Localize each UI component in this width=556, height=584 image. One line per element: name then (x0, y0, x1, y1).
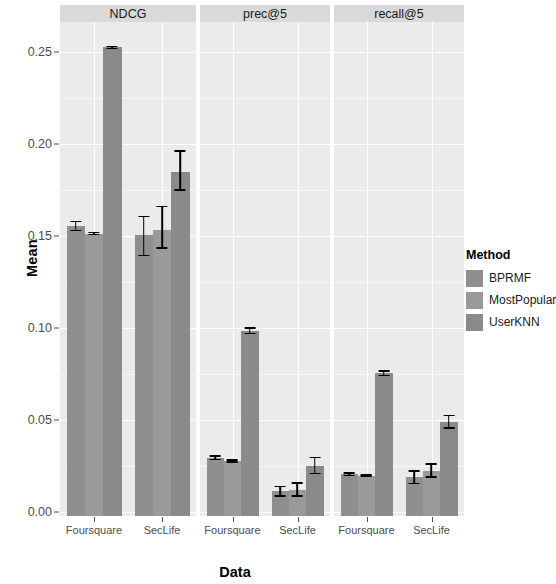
legend-item-BPRMF[interactable]: BPRMF (466, 267, 555, 289)
x-tick-mark (94, 517, 95, 522)
major-gridline (200, 52, 330, 53)
y-tick-mark (54, 420, 59, 421)
facet-strip-label: recall@5 (374, 7, 424, 21)
facet-strip-NDCG: NDCG (60, 5, 196, 22)
error-bar (171, 150, 189, 190)
error-bar (341, 472, 358, 476)
major-gridline (60, 52, 196, 53)
error-bar (153, 206, 171, 249)
major-gridline (200, 236, 330, 237)
minor-gridline (334, 190, 464, 191)
error-bar-stem (179, 150, 181, 190)
legend-items: BPRMFMostPopularUserKNN (466, 267, 555, 333)
minor-gridline (200, 282, 330, 283)
legend-item-label: BPRMF (489, 271, 531, 285)
bar-recall-5-SecLife-UserKNN (440, 422, 458, 516)
bar-NDCG-Foursquare-UserKNN (103, 47, 122, 516)
error-bar-cap-bottom (210, 459, 221, 461)
error-bar-cap-bottom (107, 48, 118, 50)
x-tick-label-Foursquare: Foursquare (66, 524, 122, 536)
error-bar (67, 221, 85, 232)
error-bar (406, 470, 423, 484)
error-bar-cap-bottom (227, 461, 238, 463)
x-tick-mark (233, 517, 234, 522)
error-bar-cap-bottom (409, 483, 420, 485)
minor-gridline (60, 98, 196, 99)
error-bar-cap-top (409, 470, 420, 472)
x-tick-label-SecLife: SecLife (279, 524, 316, 536)
legend-title: Method (466, 248, 555, 262)
x-tick-label-SecLife: SecLife (413, 524, 450, 536)
error-bar-cap-top (156, 206, 167, 208)
error-bar-cap-bottom (378, 375, 389, 377)
error-bar-stem (143, 216, 145, 256)
error-bar-cap-bottom (175, 189, 186, 191)
error-bar-cap-bottom (244, 333, 255, 335)
error-bar-cap-top (443, 415, 454, 417)
legend-item-label: UserKNN (489, 315, 540, 329)
x-tick-label-Foursquare: Foursquare (204, 524, 260, 536)
error-bar-cap-bottom (309, 473, 320, 475)
major-gridline (200, 144, 330, 145)
error-bar-cap-top (275, 486, 286, 488)
bar-recall-5-Foursquare-UserKNN (375, 373, 393, 516)
x-tick-label-SecLife: SecLife (144, 524, 181, 536)
panel-NDCG (60, 22, 196, 516)
y-tick-mark (54, 236, 59, 237)
y-tick-label: 0.25 (6, 45, 52, 59)
legend-item-MostPopular[interactable]: MostPopular (466, 289, 555, 311)
error-bar-cap-top (244, 327, 255, 329)
error-bar-cap-bottom (344, 475, 355, 477)
error-bar-cap-top (210, 455, 221, 457)
error-bar-cap-bottom (156, 247, 167, 249)
minor-gridline (334, 98, 464, 99)
error-bar-cap-bottom (138, 255, 149, 257)
y-tick-label: 0.10 (6, 321, 52, 335)
error-bar-cap-bottom (275, 495, 286, 497)
major-gridline (60, 144, 196, 145)
bar-NDCG-Foursquare-MostPopular (85, 234, 104, 516)
y-tick-mark (54, 512, 59, 513)
y-tick-label: 0.20 (6, 137, 52, 151)
category-gridline (233, 22, 234, 516)
x-tick-label-Foursquare: Foursquare (338, 524, 394, 536)
major-gridline (334, 328, 464, 329)
error-bar (306, 457, 323, 474)
minor-gridline (334, 282, 464, 283)
error-bar-cap-top (344, 472, 355, 474)
error-bar-cap-bottom (88, 234, 99, 236)
error-bar (241, 327, 258, 334)
panel-prec-5 (200, 22, 330, 516)
bar-prec-5-Foursquare-MostPopular (224, 461, 242, 516)
error-bar-cap-top (175, 150, 186, 152)
error-bar (423, 463, 440, 477)
minor-gridline (200, 190, 330, 191)
category-gridline (367, 22, 368, 516)
error-bar-cap-bottom (361, 475, 372, 477)
error-bar-cap-bottom (70, 230, 81, 232)
error-bar (103, 46, 121, 50)
error-bar-cap-bottom (443, 427, 454, 429)
error-bar (135, 216, 153, 256)
legend-item-UserKNN[interactable]: UserKNN (466, 311, 555, 333)
y-tick-label: 0.05 (6, 413, 52, 427)
error-bar-cap-top (309, 457, 320, 459)
minor-gridline (200, 374, 330, 375)
bar-NDCG-SecLife-MostPopular (153, 230, 172, 516)
category-gridline (432, 22, 433, 516)
error-bar (375, 370, 392, 376)
x-tick-mark (432, 517, 433, 522)
bar-prec-5-Foursquare-BPRMF (207, 458, 225, 516)
y-axis: 0.000.050.100.150.200.25 (0, 0, 60, 584)
panel-recall-5 (334, 22, 464, 516)
y-tick-mark (54, 328, 59, 329)
error-bar (224, 459, 241, 463)
bar-NDCG-Foursquare-BPRMF (67, 226, 86, 516)
legend-item-label: MostPopular (489, 293, 556, 307)
error-bar (358, 474, 375, 477)
error-bar (85, 232, 103, 236)
facet-strip-label: NDCG (110, 7, 147, 21)
major-gridline (200, 420, 330, 421)
bar-NDCG-SecLife-BPRMF (135, 235, 154, 516)
